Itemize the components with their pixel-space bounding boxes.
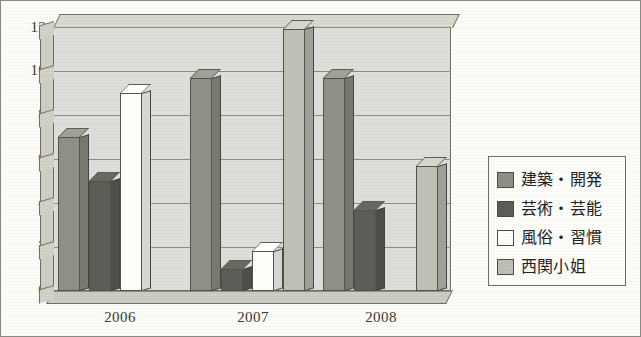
bar-side [376,207,385,291]
bar-face [190,78,212,291]
legend-swatch-icon [497,230,514,246]
x-axis: 2006 2007 2008 [53,309,451,333]
bar-2008-series-1[interactable] [354,210,376,291]
legend-label: 風俗・習慣 [521,229,602,246]
bar-side [80,134,89,291]
bar-face [221,269,243,291]
legend-label: 芸術・芸能 [521,200,602,217]
bar-face [283,29,305,291]
plot-top-surface [53,14,460,28]
bar-face [252,251,274,291]
legend-label: 西関小姐 [521,258,586,275]
x-tick-2006: 2006 [75,309,165,325]
bar-face [89,181,111,291]
bar-side [305,26,314,291]
bar-groups [53,27,451,291]
legend-item-2[interactable]: 風俗・習慣 [497,223,619,252]
bar-2008-series-0[interactable] [323,78,345,291]
x-tick-2007: 2007 [208,309,298,325]
legend-swatch-icon [497,201,514,217]
bar-side [243,266,252,291]
chart-page: 12 10 8 6 4 2 0 2006 2007 2008 建築・開発 [0,0,641,337]
chart-legend: 建築・開発 芸術・芸能 風俗・習慣 西関小姐 [488,156,626,286]
legend-item-0[interactable]: 建築・開発 [497,165,619,194]
bar-2007-series-2[interactable] [252,251,274,291]
bar-group-2008 [318,27,451,291]
bar-side [438,163,447,291]
bar-2006-series-0[interactable] [58,137,80,291]
bar-face [120,93,142,291]
bar-side [345,75,354,291]
bar-side [212,75,221,291]
bar-2006-series-2[interactable] [120,93,142,291]
bar-2008-series-3[interactable] [416,166,438,291]
bar-group-2006 [53,27,186,291]
plot-area [53,27,451,291]
bar-face [354,210,376,291]
bar-2006-series-1[interactable] [89,181,111,291]
bar-chart: 12 10 8 6 4 2 0 2006 2007 2008 [9,19,479,319]
x-tick-2008: 2008 [336,309,426,325]
bar-side [111,178,120,291]
legend-item-3[interactable]: 西関小姐 [497,252,619,281]
legend-item-1[interactable]: 芸術・芸能 [497,194,619,223]
bar-face [58,137,80,291]
bar-2007-series-0[interactable] [190,78,212,291]
bar-face [323,78,345,291]
legend-swatch-icon [497,259,514,275]
bar-2007-series-1[interactable] [221,269,243,291]
legend-swatch-icon [497,172,514,188]
plot-floor [46,290,453,304]
bar-side [274,249,283,291]
gridline-0 [53,291,451,292]
bar-group-2007 [186,27,319,291]
bar-side [142,90,151,291]
legend-label: 建築・開発 [521,171,602,188]
bar-2007-series-3[interactable] [283,29,305,291]
bar-face [416,166,438,291]
